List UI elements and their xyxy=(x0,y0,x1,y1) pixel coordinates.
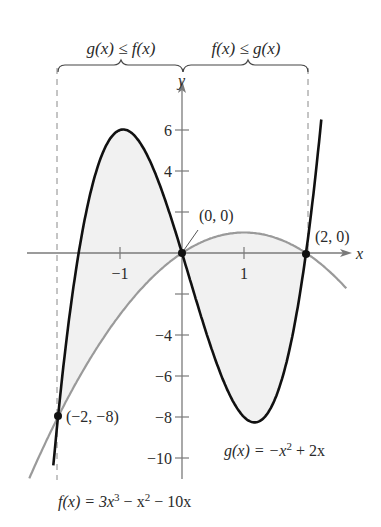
brace-left-label: g(x) ≤ f(x) xyxy=(87,39,156,58)
point-neg2-neg8 xyxy=(54,412,62,420)
brace-right-label: f(x) ≤ g(x) xyxy=(212,39,281,58)
y-tick-label: −4 xyxy=(155,327,172,344)
x-tick-label: −1 xyxy=(111,265,128,282)
y-tick-label: −8 xyxy=(155,409,172,426)
x-tick-label: 1 xyxy=(240,265,248,282)
y-tick-label: −10 xyxy=(147,450,172,467)
f-equation: f(x) = 3x3 − x2 − 10x xyxy=(58,491,191,511)
point-2-0 xyxy=(302,250,310,258)
point-origin xyxy=(178,249,186,257)
point-origin-label: (0, 0) xyxy=(199,207,234,225)
brace-left xyxy=(58,60,183,72)
x-axis-label: x xyxy=(355,245,363,262)
y-axis-label: y xyxy=(176,72,186,90)
chart: g(x) ≤ f(x) f(x) ≤ g(x) x y −1164−4−6−8−… xyxy=(0,0,381,527)
y-tick-label: −6 xyxy=(155,368,172,385)
y-tick-label: 6 xyxy=(164,122,172,139)
y-tick-label: 4 xyxy=(164,163,172,180)
point-2-label: (2, 0) xyxy=(315,228,350,246)
g-equation: g(x) = −x2 + 2x xyxy=(224,440,325,460)
brace-right xyxy=(183,60,308,72)
point-neg2-label: (−2, −8) xyxy=(66,408,119,426)
